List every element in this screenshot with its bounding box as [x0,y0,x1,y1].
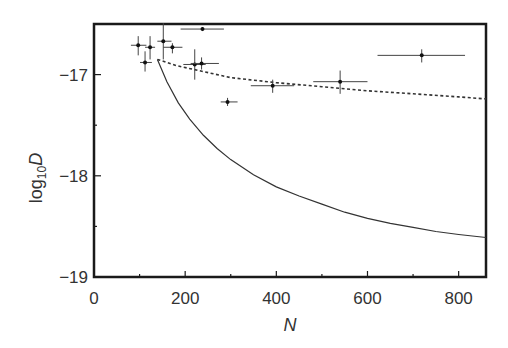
point-marker [143,60,147,64]
data-point [145,36,155,59]
point-marker [226,100,230,104]
y-axis-title-subscript: 10 [35,165,49,179]
y-axis-title-suffix: D [26,153,46,166]
point-marker [136,43,140,47]
point-marker [170,45,174,49]
y-axis-title: log10D [26,153,49,203]
model-curves [157,59,486,237]
x-tick-label: 400 [262,289,290,308]
x-tick-label: 200 [171,289,199,308]
x-axis-title: N [284,315,298,335]
point-marker [200,61,204,65]
y-tick-label: −19 [59,268,88,287]
y-tick-label: −18 [59,167,88,186]
point-marker [161,39,165,43]
data-point [221,98,238,106]
plot-frame [94,24,486,277]
x-tick-label: 800 [444,289,472,308]
plot-border [94,24,486,277]
point-marker [338,80,342,84]
data-point [157,23,171,59]
data-point [131,36,146,55]
y-axis-title-prefix: log [26,179,46,203]
x-tick-label: 0 [89,289,98,308]
data-point [251,80,294,93]
chart: 0200400600800 −17−18−19 N log10D [0,0,508,348]
y-tick-label: −17 [59,66,88,85]
x-tick-label: 600 [353,289,381,308]
point-marker [200,27,204,31]
data-point [181,27,224,31]
data-point [378,49,466,62]
point-marker [148,45,152,49]
point-marker [420,53,424,57]
dashed-curve [157,59,486,99]
point-marker [271,84,275,88]
data-point [163,43,182,53]
